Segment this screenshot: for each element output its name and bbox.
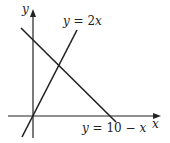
line-y-equals-2x <box>22 30 77 137</box>
x-axis-label: x <box>152 118 159 130</box>
label-lhs: y <box>63 14 70 28</box>
label-eq: = 2 <box>70 14 95 28</box>
label-lhs: y <box>82 121 89 135</box>
line-y-equals-10-minus-x <box>21 28 116 122</box>
label-y-equals-10-minus-x: y = 10 − x <box>82 122 146 134</box>
y-axis-arrow-icon <box>30 9 36 17</box>
label-var: x <box>95 14 102 28</box>
label-var: x <box>139 121 146 135</box>
label-eq: = 10 − <box>89 121 140 135</box>
label-y-equals-2x: y = 2x <box>63 15 102 27</box>
y-axis-label: y <box>22 3 29 15</box>
